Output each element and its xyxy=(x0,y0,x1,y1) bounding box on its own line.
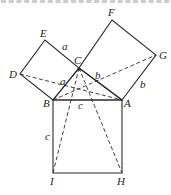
label-vertex-I: I xyxy=(49,175,55,187)
label-side-a-mid: a xyxy=(60,75,66,87)
vertex-dot-C xyxy=(77,67,80,70)
square-on-a xyxy=(20,40,79,100)
label-side-b-mid: b xyxy=(95,69,101,81)
label-side-c-left: c xyxy=(45,130,50,142)
label-vertex-G: G xyxy=(159,49,167,61)
label-side-b-right: b xyxy=(140,78,146,90)
label-vertex-D: D xyxy=(8,68,17,80)
square-on-c xyxy=(53,100,122,173)
pythagorean-diagram: E F C G D B A I H a a b b c c xyxy=(0,0,171,195)
label-side-c-top: c xyxy=(78,99,83,111)
label-vertex-C: C xyxy=(74,54,82,66)
label-vertex-E: E xyxy=(39,27,47,39)
label-vertex-F: F xyxy=(107,6,115,18)
label-vertex-A: A xyxy=(123,97,131,109)
label-vertex-B: B xyxy=(43,97,50,109)
label-side-a-top: a xyxy=(62,40,68,52)
label-vertex-H: H xyxy=(116,175,126,187)
